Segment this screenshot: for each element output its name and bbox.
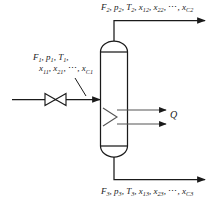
bottom-p-subscript: 3 [119, 190, 122, 197]
internal-coil-zigzag [103, 108, 117, 126]
top-T-subscript: 2 [131, 6, 134, 13]
bottom-ellipsis: ⋯ [168, 186, 177, 196]
inlet-F-symbol: F [33, 52, 39, 62]
inlet-xC-subscript: C1 [86, 68, 93, 75]
bottom-F-symbol: F [101, 186, 107, 196]
inlet-x2-subscript: 21 [57, 68, 63, 75]
inlet-p-symbol: p [46, 52, 51, 62]
flow-lines-svg [0, 0, 221, 206]
bottom-outlet-stream-label: F3, p3, T3, x13, x23, ⋯, xC3 [101, 186, 193, 198]
separator-vessel [101, 41, 128, 157]
inlet-x1-subscript: 11 [43, 68, 49, 75]
valve-left-triangle [45, 94, 56, 106]
top-F-subscript: 2 [107, 6, 110, 13]
top-xC-subscript: C2 [186, 6, 193, 13]
bottom-x2-subscript: 23 [157, 190, 163, 197]
top-p-subscript: 2 [119, 6, 122, 13]
top-outlet-stream-label: F2, p2, T2, x12, x22, ⋯, xC2 [101, 2, 193, 14]
bottom-outlet-pipe [114, 157, 205, 180]
inlet-p-subscript: 1 [51, 56, 54, 63]
inlet-label-leader-line [75, 78, 86, 96]
top-outlet-pipe [114, 21, 205, 42]
inlet-line-2: x11, x21, ⋯, xC1 [33, 63, 93, 75]
bottom-p-symbol: p [114, 186, 119, 196]
top-ellipsis: ⋯ [168, 2, 177, 12]
inlet-stream-label: F1, p1, T1,x11, x21, ⋯, xC1 [33, 52, 93, 75]
bottom-outlet-flow-line [114, 157, 205, 180]
inlet-T-subscript: 1 [63, 56, 66, 63]
heat-duty-label: Q [170, 109, 177, 122]
vessel-bottom-head [101, 146, 128, 157]
inlet-F-subscript: 1 [39, 56, 42, 63]
heat-duty-arrows [117, 110, 166, 124]
valve-right-triangle [56, 94, 67, 106]
coil-chevron [103, 108, 117, 126]
bottom-x1-subscript: 13 [143, 190, 149, 197]
bottom-F-subscript: 3 [107, 190, 110, 197]
top-p-symbol: p [114, 2, 119, 12]
bottom-T-subscript: 3 [131, 190, 134, 197]
top-x2-subscript: 22 [157, 6, 163, 13]
sep-9: , [66, 52, 68, 62]
inlet-line-1: F1, p1, T1, [33, 52, 69, 62]
process-flow-diagram: F2, p2, T2, x12, x22, ⋯, xC2 F1, p1, T1,… [0, 0, 221, 206]
bottom-xC-subscript: C3 [186, 190, 193, 197]
vessel-top-head [101, 41, 128, 52]
top-outlet-flow-line [114, 21, 205, 42]
top-F-symbol: F [101, 2, 107, 12]
bowtie-valve-icon [45, 94, 66, 106]
top-x1-subscript: 12 [143, 6, 149, 13]
inlet-ellipsis: ⋯ [68, 63, 77, 73]
